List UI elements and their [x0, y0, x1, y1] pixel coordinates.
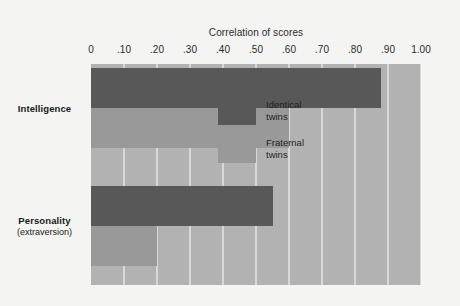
- legend-label: Fraternaltwins: [266, 137, 304, 160]
- x-tick-label: .90: [381, 44, 395, 55]
- x-tick-label: .80: [348, 44, 362, 55]
- x-tick-label: .10: [117, 44, 131, 55]
- gridline: [387, 64, 389, 285]
- legend-label: Identicaltwins: [266, 99, 301, 122]
- x-tick-label: .50: [249, 44, 263, 55]
- x-tick-label: .70: [315, 44, 329, 55]
- x-tick-label: .40: [216, 44, 230, 55]
- x-tick-label: 1.00: [411, 44, 430, 55]
- bar-fraternal-1: [91, 226, 157, 266]
- gridline: [420, 64, 421, 285]
- category-label-name: Intelligence: [0, 103, 89, 114]
- chart-page: Correlation of scores 0.10.20.30.40.50.6…: [0, 0, 460, 306]
- x-tick-label: .20: [150, 44, 164, 55]
- chart-title: Correlation of scores: [91, 27, 421, 38]
- legend-swatch-identical: [218, 101, 256, 125]
- x-tick-label: .60: [282, 44, 296, 55]
- category-label-sub: (extraversion): [0, 227, 89, 237]
- bar-fraternal-0: [91, 108, 289, 148]
- legend-label-line1: Identical: [266, 99, 301, 111]
- plot-area: [91, 64, 421, 285]
- legend-label-line1: Fraternal: [266, 137, 304, 149]
- bar-identical-1: [91, 186, 273, 226]
- legend-swatch-fraternal: [218, 139, 256, 163]
- legend-label-line2: twins: [266, 111, 301, 123]
- category-label-1: Personality(extraversion): [0, 215, 89, 237]
- x-tick-label: .30: [183, 44, 197, 55]
- category-label-name: Personality: [0, 215, 89, 226]
- x-axis-tick-labels: 0.10.20.30.40.50.60.70.80.901.00: [0, 44, 460, 58]
- category-label-0: Intelligence: [0, 103, 89, 114]
- legend-label-line2: twins: [266, 149, 304, 161]
- x-tick-label: 0: [88, 44, 94, 55]
